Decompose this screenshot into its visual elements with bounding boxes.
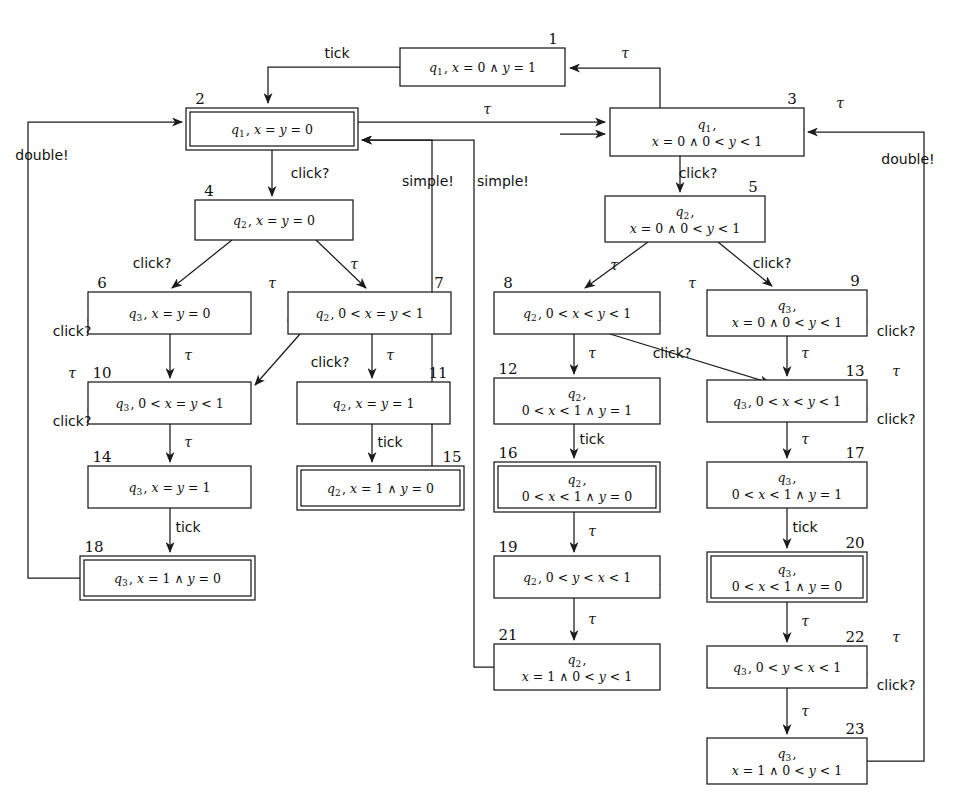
edge-label-tau-3-to-1: τ (621, 45, 629, 61)
edge-7-to-10-click (255, 334, 300, 385)
state-number-3: 3 (787, 90, 797, 108)
state-number-16: 16 (498, 444, 517, 462)
edge-label-tau-5-to-8: τ (610, 257, 618, 273)
svg-text:q3 , x = 1 ∧ y = 0: q3 , x = 1 ∧ y = 0 (114, 571, 221, 588)
state-node-5[interactable]: q2 ,x = 0 ∧ 0 < y < 15 (605, 178, 765, 242)
svg-text:0 < x < 1 ∧ y = 0: 0 < x < 1 ∧ y = 0 (732, 579, 842, 594)
svg-text:x = 0 ∧ 0 < y < 1: x = 0 ∧ 0 < y < 1 (732, 315, 842, 330)
state-number-23: 23 (845, 720, 864, 738)
state-node-18[interactable]: q3 , x = 1 ∧ y = 018 (80, 538, 255, 600)
svg-text:0 < x < 1 ∧ y = 1: 0 < x < 1 ∧ y = 1 (732, 487, 842, 502)
state-number-5: 5 (748, 178, 758, 196)
svg-text:q3 , 0 < x < y < 1: q3 , 0 < x < y < 1 (733, 394, 841, 411)
edge-label-tau-13-to-17: τ (801, 431, 809, 447)
svg-text:x = 0 ∧ 0 < y < 1: x = 0 ∧ 0 < y < 1 (652, 134, 762, 149)
state-number-21: 21 (498, 626, 517, 644)
state-diagram-svg: q1 , x = 0 ∧ y = 11q1 , x = y = 02q1 ,x … (0, 0, 953, 811)
state-number-18: 18 (84, 538, 103, 556)
edge-label-click-8-to-13: click? (653, 345, 692, 361)
edge-label-simple-15-to-2: simple! (402, 173, 454, 189)
state-number-14: 14 (92, 448, 111, 466)
edge-label-self-6: click? (53, 323, 92, 339)
state-node-8[interactable]: q2 , 0 < x < y < 18 (494, 274, 660, 334)
svg-text:q2 , 0 < y < x < 1: q2 , 0 < y < x < 1 (523, 570, 631, 587)
state-node-6[interactable]: q3 , x = y = 06 (88, 274, 251, 334)
edge-label-click-3-to-5: click? (679, 165, 718, 181)
state-number-6: 6 (97, 274, 107, 292)
state-node-4[interactable]: q2 , x = y = 04 (195, 182, 353, 240)
svg-text:x = 1 ∧ 0 < y < 1: x = 1 ∧ 0 < y < 1 (732, 763, 842, 778)
state-node-15[interactable]: q2 , x = 1 ∧ y = 015 (297, 448, 464, 510)
edge-label-tau-10-to-14: τ (184, 434, 192, 450)
state-number-4: 4 (204, 182, 214, 200)
svg-text:q2 , 0 < x < y < 1: q2 , 0 < x < y < 1 (523, 306, 631, 323)
edge-label-tau-9-to-13: τ (801, 345, 809, 361)
state-number-9: 9 (850, 272, 860, 290)
edge-label-tick-17-to-20: tick (792, 519, 818, 535)
state-node-1[interactable]: q1 , x = 0 ∧ y = 11 (400, 30, 565, 86)
edge-label-tick-12-to-16: tick (579, 431, 605, 447)
edge-label-tau-19-to-21: τ (588, 611, 596, 627)
edge-label-self-10-click: click? (53, 413, 92, 429)
state-node-16[interactable]: q2 ,0 < x < 1 ∧ y = 016 (494, 444, 660, 512)
state-number-13: 13 (845, 362, 864, 380)
edge-label-tau-16-to-19: τ (588, 523, 596, 539)
state-number-22: 22 (845, 628, 864, 646)
edge-18-to-2-double (28, 122, 182, 578)
diagram-canvas: q1 , x = 0 ∧ y = 11q1 , x = y = 02q1 ,x … (0, 0, 953, 811)
svg-text:0 < x < 1 ∧ y = 0: 0 < x < 1 ∧ y = 0 (522, 489, 632, 504)
edge-label-simple-21-to-2: simple! (477, 173, 529, 189)
edge-label-self-22-tau: τ (892, 629, 900, 645)
state-node-12[interactable]: q2 ,0 < x < 1 ∧ y = 112 (494, 360, 660, 424)
svg-text:q1 , x = 0 ∧ y = 1: q1 , x = 0 ∧ y = 1 (429, 60, 536, 77)
edge-label-tau-6-to-10: τ (184, 347, 192, 363)
edge-label-click-2-to-4: click? (291, 165, 330, 181)
edge-4-to-7-tau (316, 240, 366, 288)
edge-label-self-8: τ (688, 275, 696, 291)
edge-label-click-4-to-6: click? (133, 255, 172, 271)
edge-label-self-7: τ (268, 275, 276, 291)
state-node-3[interactable]: q1 ,x = 0 ∧ 0 < y < 13 (610, 90, 804, 156)
edge-label-double-18-to-2: double! (15, 147, 68, 163)
edge-label-tau-4-to-7: τ (350, 256, 358, 272)
state-node-2[interactable]: q1 , x = y = 02 (186, 90, 358, 150)
state-number-11: 11 (428, 364, 447, 382)
state-number-15: 15 (442, 448, 461, 466)
state-number-10: 10 (92, 364, 111, 382)
state-node-9[interactable]: q3 ,x = 0 ∧ 0 < y < 19 (707, 272, 867, 336)
edge-label-click-7-to-10: click? (311, 354, 350, 370)
edge-3-to-1-tau (570, 68, 660, 108)
edge-label-self-22-click: click? (877, 677, 916, 693)
state-node-19[interactable]: q2 , 0 < y < x < 119 (494, 538, 660, 598)
edge-label-self-3: τ (836, 95, 844, 111)
state-node-11[interactable]: q2 , x = y = 111 (297, 364, 450, 424)
edge-label-self-13-tau: τ (892, 363, 900, 379)
state-number-1: 1 (548, 30, 558, 48)
edge-4-to-6-click (172, 240, 232, 288)
edge-label-tau-7-to-11: τ (386, 347, 394, 363)
edge-label-click-5-to-9: click? (753, 255, 792, 271)
edge-label-tau-2-to-3: τ (483, 101, 491, 117)
state-number-12: 12 (498, 360, 517, 378)
state-node-21[interactable]: q2 ,x = 1 ∧ 0 < y < 121 (494, 626, 660, 690)
edge-label-tick-11-to-15: tick (377, 434, 403, 450)
state-number-17: 17 (845, 444, 864, 462)
edge-1-to-2-tick (268, 67, 400, 103)
edge-label-self-10-tau: τ (68, 365, 76, 381)
state-number-8: 8 (503, 274, 513, 292)
edge-label-tick-1-to-2: tick (324, 45, 350, 61)
state-node-7[interactable]: q2 , 0 < x = y < 17 (288, 274, 451, 334)
svg-text:q3 , 0 < x = y < 1: q3 , 0 < x = y < 1 (115, 396, 223, 413)
svg-text:x = 0 ∧ 0 < y < 1: x = 0 ∧ 0 < y < 1 (630, 221, 740, 236)
edge-label-tick-14-to-18: tick (175, 519, 201, 535)
svg-text:q2 , x = 1 ∧ y = 0: q2 , x = 1 ∧ y = 0 (327, 481, 434, 498)
edge-label-double-23-to-3: double! (881, 151, 934, 167)
edge-label-tau-22-to-23: τ (801, 703, 809, 719)
state-number-7: 7 (434, 274, 444, 292)
edge-label-self-13-click: click? (877, 411, 916, 427)
state-number-2: 2 (195, 90, 205, 108)
svg-text:x = 1 ∧ 0 < y < 1: x = 1 ∧ 0 < y < 1 (522, 669, 632, 684)
state-number-19: 19 (498, 538, 517, 556)
svg-text:q2 , 0 < x = y < 1: q2 , 0 < x = y < 1 (315, 306, 423, 323)
edge-label-tau-8-to-12: τ (588, 345, 596, 361)
